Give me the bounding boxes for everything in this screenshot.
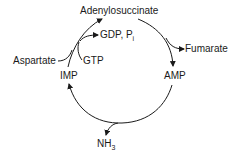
- label-fumarate: Fumarate: [185, 43, 228, 55]
- label-aspartate: Aspartate: [13, 55, 56, 67]
- label-nh3-text: NH: [97, 138, 111, 149]
- arrow-adenylosuccinate-to-amp: [138, 19, 173, 66]
- label-nh3: NH3: [97, 138, 115, 154]
- arrow-amp-to-imp: [69, 84, 172, 123]
- label-nh3-sub: 3: [111, 144, 115, 151]
- node-adenylosuccinate: Adenylosuccinate: [80, 5, 158, 17]
- cycle-arrows: [0, 0, 237, 159]
- label-gdp-pi: GDP, Pi: [100, 29, 134, 45]
- node-amp: AMP: [164, 70, 186, 82]
- arrow-gtp-in: [78, 42, 82, 60]
- arrow-nh3-out: [106, 123, 118, 135]
- node-imp: IMP: [60, 70, 78, 82]
- label-gdp-pi-sub: i: [133, 35, 135, 42]
- label-gtp: GTP: [83, 55, 104, 67]
- label-gdp-pi-text: GDP, P: [100, 29, 133, 40]
